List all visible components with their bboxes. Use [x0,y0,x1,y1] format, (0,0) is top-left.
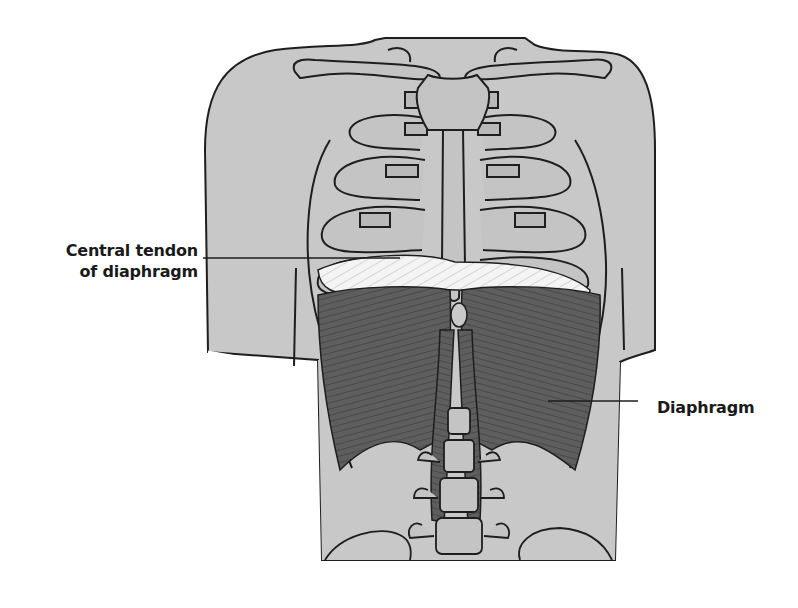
diaphragm-label: Diaphragm [657,397,754,418]
diaphragm-label-line-1: Diaphragm [657,397,754,418]
central-tendon-label-line-1: Central tendon [38,240,198,261]
central-tendon-label-line-2: of diaphragm [38,261,198,282]
diaphragm-anatomy-illustration [0,0,798,608]
central-tendon-label: Central tendon of diaphragm [38,240,198,282]
